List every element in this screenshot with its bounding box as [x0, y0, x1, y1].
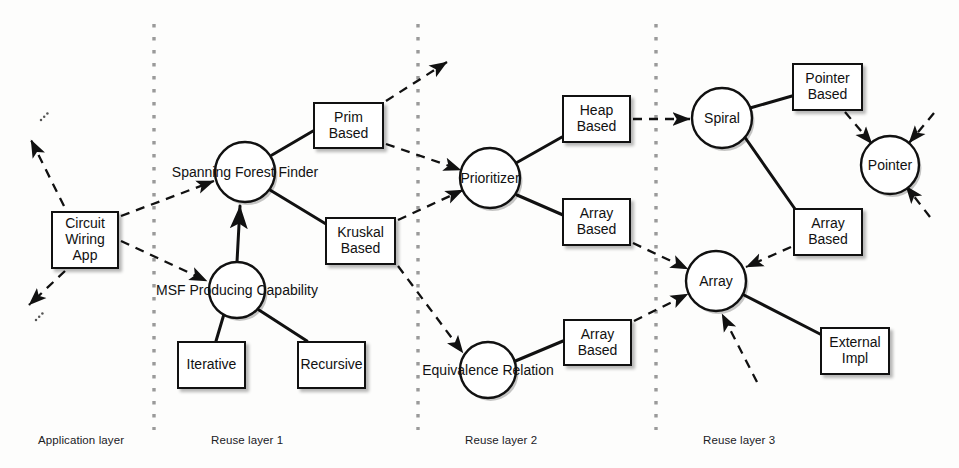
edge-prioritizer-heap: [516, 137, 562, 163]
kruskal-based-label: KruskalBased: [337, 225, 384, 256]
dash-kruskal-equivalence: [398, 266, 463, 353]
reuse-layer-3-label: Reuse layer 3: [703, 434, 775, 446]
recursive-label: Recursive: [300, 357, 362, 373]
external-impl-label: ExternalImpl: [829, 335, 880, 366]
iterative-label: Iterative: [187, 357, 237, 373]
array-based-equivalence[interactable]: ArrayBased: [563, 319, 632, 366]
prim-based[interactable]: PrimBased: [313, 102, 384, 149]
dash-prim-prioritizer: [386, 144, 461, 170]
prim-based-label: PrimBased: [329, 110, 369, 141]
edge-equivalence-array: [513, 341, 563, 362]
array-based-prioritizer[interactable]: ArrayBased: [562, 198, 631, 246]
pointer[interactable]: [861, 136, 919, 194]
array-based-spiral[interactable]: ArrayBased: [793, 208, 863, 256]
iterative[interactable]: Iterative: [177, 341, 246, 389]
spiral[interactable]: [692, 88, 752, 148]
edge-msf-recursive: [259, 310, 307, 341]
dash-arraybased3-array: [746, 247, 791, 267]
dash-app-upleft: [31, 140, 64, 206]
dash-app-msf: [121, 241, 207, 281]
prioritizer[interactable]: [460, 148, 520, 208]
array-based-prioritizer-label: ArrayBased: [577, 206, 617, 237]
msf-producing-capability[interactable]: [209, 262, 265, 318]
array[interactable]: [686, 251, 746, 311]
dash-prim-upright: [386, 62, 447, 101]
edge-sff-kruskal: [270, 190, 326, 224]
dash-below-array: [722, 314, 757, 382]
reuse-layer-2-label: Reuse layer 2: [465, 434, 537, 446]
heap-based[interactable]: HeapBased: [562, 95, 631, 143]
diagram-canvas: CircuitWiringAppPrimBasedKruskalBasedIte…: [0, 0, 959, 468]
reuse-layer-1-label: Reuse layer 1: [211, 434, 283, 446]
dash-array2eq-array3: [634, 294, 688, 321]
dash-app-downleft: [29, 271, 65, 305]
dash-app-sff: [121, 181, 214, 216]
application-layer-label: Application layer: [38, 434, 124, 446]
heap-based-label: HeapBased: [577, 103, 617, 134]
edge-msf-sff: [237, 206, 240, 262]
dash-pointer-upright: [909, 113, 934, 143]
edge-spiral-pointerbased: [750, 96, 792, 108]
edge-sff-prim: [272, 131, 313, 155]
edge-spiral-arraybased: [744, 136, 795, 209]
edge-prioritizer-array: [517, 195, 563, 215]
dash-kruskal-prioritizer: [398, 190, 463, 220]
edge-array-external: [742, 294, 820, 334]
circuit-wiring-app[interactable]: CircuitWiringApp: [51, 211, 119, 269]
equivalence-relation[interactable]: [460, 342, 516, 398]
array-based-spiral-label: ArrayBased: [808, 216, 848, 247]
ellipsis-marks: [35, 112, 49, 321]
dash-array2-array3: [633, 243, 688, 269]
edge-msf-iterative: [216, 314, 224, 341]
circuit-wiring-app-label: CircuitWiringApp: [65, 216, 105, 263]
ellipsis-bottom-left: [35, 312, 44, 321]
array-based-equivalence-label: ArrayBased: [578, 327, 618, 358]
pointer-based-label: PointerBased: [805, 71, 849, 102]
kruskal-based[interactable]: KruskalBased: [325, 217, 396, 265]
spanning-forest-finder[interactable]: [215, 142, 275, 202]
dash-pointerbased-pointer: [845, 112, 872, 144]
ellipsis-top-left: [40, 112, 49, 121]
external-impl[interactable]: ExternalImpl: [820, 327, 890, 375]
pointer-based[interactable]: PointerBased: [792, 63, 863, 111]
recursive[interactable]: Recursive: [297, 341, 366, 389]
